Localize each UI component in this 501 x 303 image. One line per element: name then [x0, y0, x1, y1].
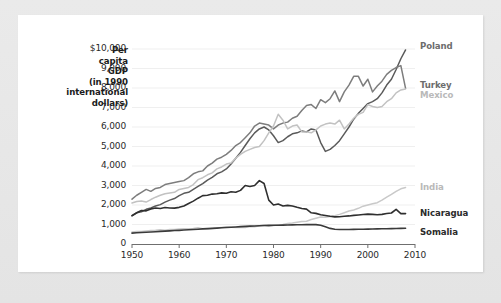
series-label-turkey: Turkey: [420, 80, 452, 90]
y-axis-tick-label: 9,000: [70, 63, 126, 73]
page-background: Per capita GDP (in 1990 international do…: [0, 0, 501, 303]
series-label-poland: Poland: [420, 41, 453, 51]
y-axis-tick-label: 6,000: [70, 121, 126, 131]
y-axis-tick-label: 0: [70, 238, 126, 248]
x-axis-tick-label: 2000: [346, 250, 390, 260]
series-label-nicaragua: Nicaragua: [420, 208, 468, 218]
chart-card: Per capita GDP (in 1990 international do…: [18, 15, 483, 272]
y-axis-tick-label: 1,000: [70, 219, 126, 229]
y-axis-tick-label: 3,000: [70, 180, 126, 190]
y-axis-tick-label: 7,000: [70, 102, 126, 112]
y-axis-tick-label: 5,000: [70, 141, 126, 151]
y-axis-tick-label: $10,000: [70, 43, 126, 53]
y-axis-tick-label: 2,000: [70, 199, 126, 209]
y-axis-tick-label: 4,000: [70, 160, 126, 170]
x-axis-tick-label: 1950: [110, 250, 154, 260]
series-label-india: India: [420, 182, 444, 192]
x-axis-tick-label: 2010: [393, 250, 437, 260]
x-axis-tick-label: 1990: [299, 250, 343, 260]
x-axis-tick-label: 1960: [157, 250, 201, 260]
series-label-mexico: Mexico: [420, 90, 453, 100]
x-axis-tick-label: 1980: [252, 250, 296, 260]
series-label-somalia: Somalia: [420, 227, 458, 237]
y-axis-tick-label: 8,000: [70, 82, 126, 92]
series-lines: [132, 50, 406, 233]
x-axis-tick-label: 1970: [204, 250, 248, 260]
